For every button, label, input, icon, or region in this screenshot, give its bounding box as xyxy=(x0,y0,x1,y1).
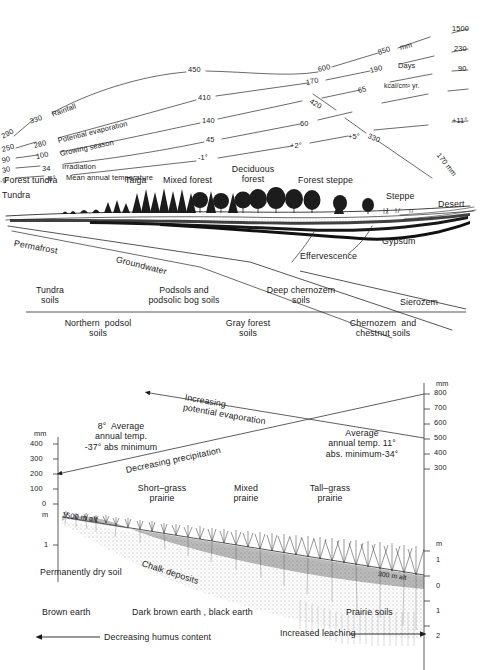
bottom-right-depth-1: 0 xyxy=(436,582,440,590)
top-left-value-2: 90 xyxy=(1,155,11,165)
top-mid-a-1: 410 xyxy=(198,94,211,102)
soil-below-1: Gray forest soils xyxy=(198,318,298,339)
zone-taiga: Taiga xyxy=(125,176,147,185)
bottom-left-tick-4: 0 xyxy=(42,500,46,508)
bottom-left-depth-unit: m xyxy=(42,511,48,519)
climate-note-left: 8° Average annual temp. -37° abs minimum xyxy=(56,421,186,452)
prairie-zone-tall: Tall–grass prairie xyxy=(292,483,368,504)
bottom-right-tick-4: 400 xyxy=(434,449,447,457)
top-mid-b-4: +2° xyxy=(290,142,302,150)
soil-above-3: Sierozem xyxy=(400,298,438,307)
bottom-left-axis-unit: mm xyxy=(34,430,47,438)
bottom-right-tick-1: 700 xyxy=(434,404,447,412)
soil-below-2: Chernozem and chestnut soils xyxy=(320,318,446,339)
soil-above-0: Tundra soils xyxy=(22,285,78,306)
bottom-right-depth-0: 1 xyxy=(436,556,440,564)
series-irradiation-label: Irradiation xyxy=(62,163,96,171)
bottom-right-tick-3: 500 xyxy=(434,434,447,442)
soil-note-dark-brown: Dark brown earth , black earth xyxy=(132,608,253,617)
bottom-right-depth-unit: m xyxy=(436,540,442,548)
label-gypsum: Gypsum xyxy=(382,237,415,246)
soil-note-brown-earth: Brown earth xyxy=(42,608,91,617)
top-right-3: +11° xyxy=(452,117,467,125)
top-mid-b-3: 60 xyxy=(300,120,308,128)
bottom-left-depth-1: 1 xyxy=(44,541,48,549)
bottom-right-depth-3: 2 xyxy=(436,632,440,640)
series-irradiation-value: 34 xyxy=(42,165,50,173)
zone-mixed-forest: Mixed forest xyxy=(163,176,212,185)
bottom-right-depth-2: 1 xyxy=(436,607,440,615)
prairie-zone-mixed: Mixed prairie xyxy=(216,483,276,504)
zone-deciduous-forest: Deciduous forest xyxy=(225,164,281,185)
bottom-left-tick-0: 400 xyxy=(30,440,43,448)
bottom-left-tick-3: 100 xyxy=(30,485,43,493)
top-left-value-3: 30 xyxy=(1,165,11,174)
bottom-left-tick-2: 200 xyxy=(30,470,43,478)
top-right-2: 90 xyxy=(458,65,466,73)
top-mid-a-0: 450 xyxy=(188,66,201,74)
bottom-right-axis-unit: mm xyxy=(436,380,449,388)
top-mid-c-3: +5° xyxy=(348,133,360,141)
top-mid-c-2: 65 xyxy=(357,85,367,94)
zone-desert: Desert xyxy=(438,200,465,209)
figure-root: 290 250 90 30 -9° 330 Rainfall 280 Poten… xyxy=(0,0,482,670)
soil-note-prairie: Prairie soils xyxy=(346,608,393,617)
arrow-label-leaching: Increased leaching xyxy=(280,629,356,638)
soil-above-1: Podsols and podsolic bog soils xyxy=(128,285,240,306)
bottom-right-tick-5: 300 xyxy=(434,464,447,472)
zone-tundra: Tundra xyxy=(2,191,30,200)
soil-above-2: Deep chernozem soils xyxy=(250,285,352,306)
zone-label-tundra-row: Forest tundra xyxy=(4,176,58,185)
unit-kcal: kcal/cm² yr. xyxy=(384,82,420,89)
top-mid-a-4: -1° xyxy=(198,154,208,162)
label-effervescence: Effervescence xyxy=(300,252,357,261)
soil-below-0: Northern podsol soils xyxy=(38,318,158,339)
bottom-right-tick-0: 800 xyxy=(434,389,447,397)
top-mid-a-3: 45 xyxy=(206,136,214,144)
bottom-right-tick-2: 600 xyxy=(434,419,447,427)
bottom-left-tick-1: 300 xyxy=(30,455,43,463)
zone-forest-steppe: Forest steppe xyxy=(298,176,353,185)
soil-note-dry: Permanently dry soil xyxy=(40,568,122,577)
climate-note-right: Average annual temp. 11° abs. minimum-34… xyxy=(300,428,424,459)
unit-days: Days xyxy=(398,62,415,70)
top-mid-a-2: 140 xyxy=(202,117,215,125)
arrow-label-humus: Decreasing humus content xyxy=(104,633,211,642)
zone-forest-tundra: Forest tundra xyxy=(4,175,58,185)
prairie-zone-short: Short–grass prairie xyxy=(122,483,202,504)
top-right-0: 1500 xyxy=(452,25,469,33)
zone-steppe: Steppe xyxy=(386,192,414,201)
vegetation-silhouettes xyxy=(62,187,413,214)
top-right-1: 230 xyxy=(454,45,467,53)
